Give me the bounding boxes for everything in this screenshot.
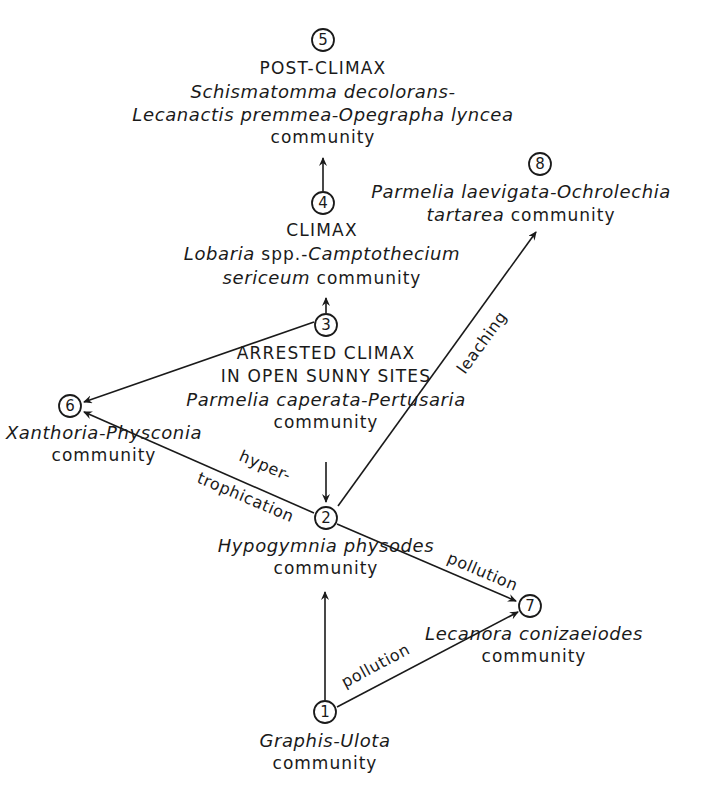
node-1-line1: Graphis-Ulota bbox=[259, 729, 390, 752]
node-5-line2: Lecanactis premmea-Opegrapha lyncea bbox=[132, 103, 513, 126]
node-2-line1: Hypogymnia physodes bbox=[218, 534, 435, 557]
node-1-label: Graphis-Ulota community bbox=[259, 729, 390, 775]
node-8-number: 8 bbox=[535, 155, 545, 173]
node-8-line2-plain: community bbox=[504, 205, 615, 225]
node-3-label: ARRESTED CLIMAX IN OPEN SUNNY SITES Parm… bbox=[186, 342, 466, 434]
edge-label-pollution-1-7: pollution bbox=[338, 640, 413, 692]
node-3-heading2: IN OPEN SUNNY SITES bbox=[186, 365, 466, 388]
node-4-heading: CLIMAX bbox=[184, 219, 460, 242]
node-4-label: CLIMAX Lobaria spp.-Camptothecium serice… bbox=[184, 219, 460, 290]
node-4-community: community bbox=[310, 268, 421, 288]
node-6-line1: Xanthoria-Physconia bbox=[6, 421, 202, 444]
node-5-heading: POST-CLIMAX bbox=[132, 57, 513, 80]
node-5-number: 5 bbox=[318, 31, 328, 49]
node-6-community: community bbox=[6, 444, 202, 467]
node-4-genus: Lobaria bbox=[184, 243, 255, 264]
node-2-community: community bbox=[218, 557, 435, 580]
node-4-spp: spp.- bbox=[255, 244, 308, 264]
node-7-community: community bbox=[425, 645, 643, 668]
node-3-community: community bbox=[186, 411, 466, 434]
node-4-number: 4 bbox=[318, 194, 328, 212]
node-1-number: 1 bbox=[320, 703, 330, 721]
node-2-label: Hypogymnia physodes community bbox=[218, 534, 435, 580]
node-6-label: Xanthoria-Physconia community bbox=[6, 421, 202, 467]
edge-label-hyper: hyper- bbox=[236, 446, 294, 485]
node-3-number: 3 bbox=[321, 316, 331, 334]
edge-label-pollution-2-7: pollution bbox=[444, 548, 520, 595]
node-5-line3: community bbox=[132, 126, 513, 149]
node-4-genus2: Camptothecium bbox=[308, 243, 460, 264]
node-3-line1: Parmelia caperata-Pertusaria bbox=[186, 388, 466, 411]
node-8-line1: Parmelia laevigata-Ochrolechia bbox=[371, 180, 671, 203]
node-6-number: 6 bbox=[65, 397, 75, 415]
node-7-number: 7 bbox=[525, 597, 535, 615]
node-7-label: Lecanora conizaeiodes community bbox=[425, 622, 643, 668]
node-5-line1: Schismatomma decolorans- bbox=[132, 80, 513, 103]
node-1-community: community bbox=[259, 752, 390, 775]
node-7-line1: Lecanora conizaeiodes bbox=[425, 622, 643, 645]
node-5-label: POST-CLIMAX Schismatomma decolorans- Lec… bbox=[132, 57, 513, 149]
node-4-species: sericeum bbox=[223, 267, 311, 288]
node-2-number: 2 bbox=[321, 509, 331, 527]
node-3-heading1: ARRESTED CLIMAX bbox=[186, 342, 466, 365]
